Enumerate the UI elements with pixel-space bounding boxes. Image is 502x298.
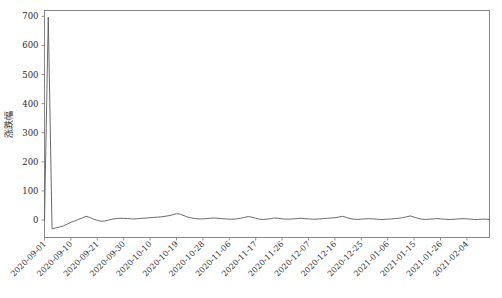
y-tick-label: 700 — [22, 11, 38, 21]
y-tick-label: 300 — [22, 128, 38, 138]
x-axis: 2020-09-012020-09-102020-09-212020-09-30… — [9, 238, 470, 279]
y-axis-title: 涨跌幅 — [3, 111, 14, 138]
plot-frame — [45, 11, 490, 238]
data-series-line — [45, 17, 490, 229]
y-tick-label: 600 — [22, 40, 38, 50]
y-tick-label: 400 — [22, 99, 38, 109]
y-tick-label: 100 — [22, 186, 38, 196]
price-change-line-chart: 0100200300400500600700 2020-09-012020-09… — [0, 0, 502, 298]
y-axis: 0100200300400500600700 — [22, 11, 44, 225]
y-tick-label: 200 — [22, 157, 38, 167]
y-tick-label: 0 — [33, 215, 38, 225]
y-tick-label: 500 — [22, 70, 38, 80]
chart-page: 0100200300400500600700 2020-09-012020-09… — [0, 0, 502, 298]
